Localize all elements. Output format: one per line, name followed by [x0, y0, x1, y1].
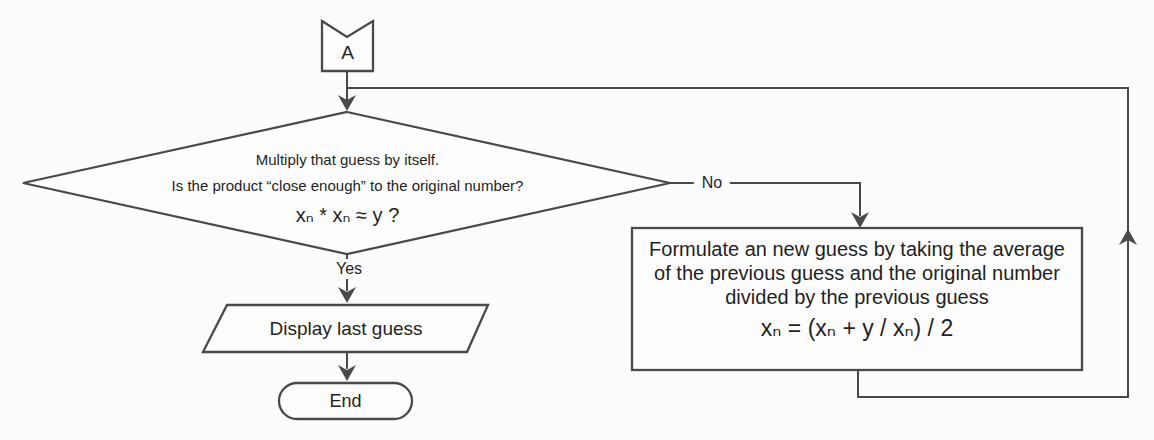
yes-edge-label: Yes	[331, 259, 367, 279]
process-formula: xₙ = (xₙ + y / xₙ) / 2	[634, 312, 1080, 344]
display-output-label: Display last guess	[203, 317, 489, 341]
decision-formula: xₙ * xₙ ≈ y ?	[37, 200, 658, 230]
process-text: Formulate an new guess by taking the ave…	[634, 237, 1080, 344]
display-output-text: Display last guess	[203, 317, 489, 341]
offpage-connector-a: A	[322, 42, 373, 64]
end-terminator-text: End	[279, 390, 412, 412]
end-terminator-label: End	[279, 390, 412, 412]
process-line2: of the previous guess and the original n…	[634, 261, 1080, 285]
process-line3: divided by the previous guess	[634, 285, 1080, 309]
process-line1: Formulate an new guess by taking the ave…	[634, 237, 1080, 261]
no-edge-label: No	[694, 173, 730, 193]
decision-question-line2: Is the product “close enough” to the ori…	[37, 173, 658, 199]
decision-text: Multiply that guess by itself. Is the pr…	[37, 147, 658, 230]
decision-question-line1: Multiply that guess by itself.	[37, 147, 658, 173]
flowchart-canvas: A Multiply that guess by itself. Is the …	[0, 0, 1154, 440]
offpage-connector-a-label: A	[322, 42, 373, 64]
